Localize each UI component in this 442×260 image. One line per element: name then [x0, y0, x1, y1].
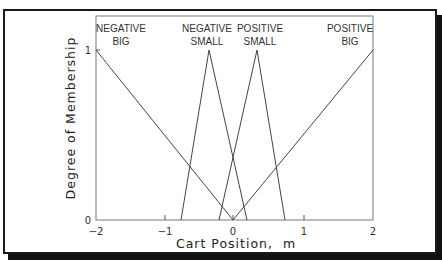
series-positive-small: [219, 50, 285, 220]
x-tick-label-neg2: −2: [89, 226, 104, 237]
x-tick-label-2: 2: [370, 226, 376, 237]
membership-chart: NEGATIVE BIG NEGATIVE SMALL POSITIVE SMA…: [0, 0, 442, 260]
label-positive-big-line2: BIG: [341, 36, 358, 47]
label-positive-small-line2: SMALL: [244, 36, 277, 47]
y-axis-title: Degree of Membership: [63, 37, 78, 200]
series-negative-big: [96, 50, 233, 220]
label-negative-small-line2: SMALL: [191, 36, 224, 47]
plot-area: [96, 16, 373, 220]
series-positive-big: [233, 50, 373, 220]
x-tick-label-neg1: −1: [158, 226, 173, 237]
label-negative-small-line1: NEGATIVE: [182, 23, 232, 34]
y-tick-label-1: 1: [85, 45, 91, 56]
membership-functions: [96, 50, 373, 220]
series-negative-small: [181, 50, 247, 220]
label-negative-big-line1: NEGATIVE: [96, 23, 146, 34]
label-negative-big-line2: BIG: [112, 36, 129, 47]
label-positive-small-line1: POSITIVE: [237, 23, 283, 34]
y-tick-label-0: 0: [85, 215, 91, 226]
x-axis-title: Cart Position, m: [176, 236, 296, 251]
label-positive-big-line1: POSITIVE: [327, 23, 373, 34]
x-tick-label-1: 1: [301, 226, 307, 237]
